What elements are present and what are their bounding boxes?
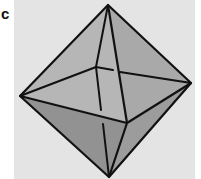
octahedron-diagram	[0, 0, 201, 179]
